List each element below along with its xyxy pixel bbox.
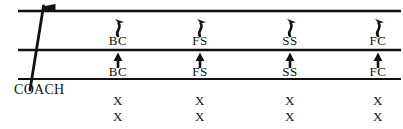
player-x-mark: X bbox=[195, 109, 205, 125]
arrowhead-icon bbox=[197, 19, 206, 23]
player-x-mark: X bbox=[285, 109, 295, 125]
player-x-mark: X bbox=[373, 109, 383, 125]
arrowhead-icon bbox=[115, 19, 124, 23]
position-label-lower-ss: SS bbox=[282, 64, 297, 80]
coach-label: COACH bbox=[14, 82, 65, 98]
arrowhead-icon bbox=[286, 53, 295, 62]
player-x-mark: X bbox=[113, 109, 123, 125]
player-x-mark: X bbox=[373, 93, 383, 109]
arrowhead-icon bbox=[374, 53, 383, 62]
player-x-mark: X bbox=[113, 93, 123, 109]
arrowhead-icon bbox=[287, 19, 296, 23]
arrowhead-icon bbox=[375, 19, 384, 23]
player-x-mark: X bbox=[195, 93, 205, 109]
position-label-lower-fs: FS bbox=[192, 64, 207, 80]
coach-line bbox=[30, 6, 44, 90]
position-label-upper-fc: FC bbox=[370, 33, 387, 49]
position-label-upper-fs: FS bbox=[192, 33, 207, 49]
position-label-lower-fc: FC bbox=[370, 64, 387, 80]
player-x-mark: X bbox=[285, 93, 295, 109]
position-label-upper-ss: SS bbox=[282, 33, 297, 49]
position-label-upper-bc: BC bbox=[109, 33, 127, 49]
play-diagram: COACH BC BC X X FS FS X X SS SS X X FC F… bbox=[0, 0, 403, 129]
coach-line-group bbox=[30, 4, 56, 90]
position-label-lower-bc: BC bbox=[109, 64, 127, 80]
arrowhead-icon bbox=[196, 53, 205, 62]
yard-lines bbox=[18, 11, 401, 79]
arrowhead-icon bbox=[114, 53, 123, 62]
